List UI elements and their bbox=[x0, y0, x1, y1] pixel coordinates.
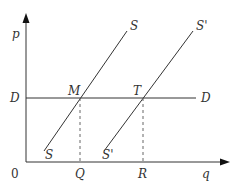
y-axis-arrow-icon bbox=[23, 13, 30, 23]
supply-curve-s bbox=[44, 31, 127, 151]
supply-s-top-label: S bbox=[130, 19, 138, 33]
intersection-t-label: T bbox=[133, 84, 142, 98]
origin-label: 0 bbox=[11, 167, 19, 181]
supply-curve-s-prime bbox=[104, 31, 193, 151]
intersection-m-label: M bbox=[67, 84, 81, 98]
x-tick-q-label: Q bbox=[75, 167, 85, 181]
demand-right-label: D bbox=[200, 91, 211, 105]
y-axis-label: p bbox=[12, 27, 20, 41]
supply-s-bottom-label: S bbox=[45, 148, 53, 162]
demand-left-label: D bbox=[9, 91, 20, 105]
supply-s-prime-bottom-label: S' bbox=[102, 148, 114, 162]
x-tick-r-label: R bbox=[137, 167, 147, 181]
x-axis-label: q bbox=[202, 167, 210, 181]
supply-s-prime-top-label: S' bbox=[196, 19, 208, 33]
x-axis-arrow-icon bbox=[220, 159, 230, 166]
supply-demand-diagram: p q 0 D D S S S' S' M T Q R bbox=[0, 0, 240, 189]
